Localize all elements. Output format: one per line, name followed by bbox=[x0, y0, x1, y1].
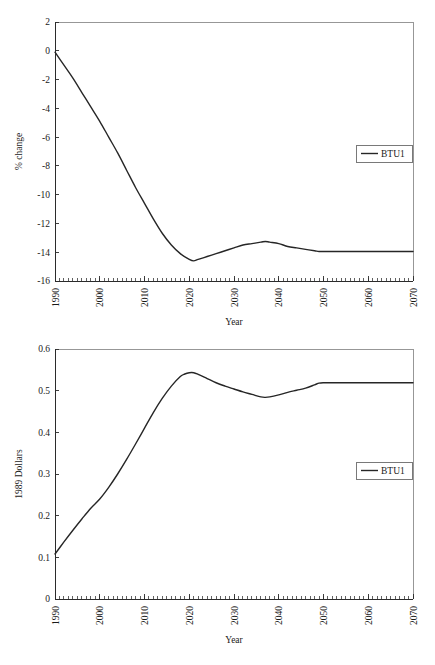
y-tick-label: 0 bbox=[45, 46, 50, 56]
x-axis-title: Year bbox=[225, 317, 243, 327]
y-tick-label: 0.6 bbox=[38, 344, 50, 354]
y-tick-label: -16 bbox=[37, 276, 50, 286]
y-tick-label: 2 bbox=[45, 17, 50, 27]
y-tick-label: -6 bbox=[42, 133, 50, 143]
y-axis-title: 1989 Dollars bbox=[14, 449, 24, 499]
x-tick-label: 2040 bbox=[274, 288, 284, 307]
x-tick-label: 2000 bbox=[95, 288, 105, 307]
x-tick-label: 1990 bbox=[51, 606, 61, 625]
x-tick-label: 2030 bbox=[230, 288, 240, 307]
x-tick-label: 1990 bbox=[51, 288, 61, 307]
chart-figure-1989-dollars: 1990200020102020203020402050206020700.60… bbox=[0, 335, 435, 665]
x-tick-label: 2050 bbox=[319, 288, 329, 307]
y-tick-label: -4 bbox=[42, 104, 50, 114]
x-tick-label: 2010 bbox=[140, 606, 150, 625]
x-tick-label: 2060 bbox=[364, 288, 374, 307]
x-tick-label: 2020 bbox=[185, 606, 195, 625]
x-tick-label: 2050 bbox=[319, 606, 329, 625]
x-axis-title: Year bbox=[225, 635, 243, 645]
y-tick-label: 0.5 bbox=[38, 386, 50, 396]
legend-label-btu1: BTU1 bbox=[381, 466, 405, 476]
x-tick-label: 2060 bbox=[364, 606, 374, 625]
y-tick-label: 0.2 bbox=[38, 511, 50, 521]
y-tick-label: -8 bbox=[42, 161, 50, 171]
legend-label-btu1: BTU1 bbox=[381, 149, 405, 159]
y-tick-label: 0.1 bbox=[38, 553, 50, 563]
y-tick-label: -14 bbox=[37, 248, 50, 258]
x-tick-label: 2070 bbox=[409, 606, 419, 625]
y-tick-label: -12 bbox=[37, 219, 50, 229]
dollars-chart: 1990200020102020203020402050206020700.60… bbox=[0, 335, 435, 665]
x-tick-label: 2000 bbox=[95, 606, 105, 625]
y-tick-label: 0.3 bbox=[38, 469, 50, 479]
x-tick-label: 2070 bbox=[409, 288, 419, 307]
chart-figure-percent-change: 19902000201020202030204020502060207020-2… bbox=[0, 0, 435, 335]
y-tick-label: 0 bbox=[45, 594, 50, 604]
x-tick-label: 2030 bbox=[230, 606, 240, 625]
y-tick-label: 0.4 bbox=[38, 428, 50, 438]
x-tick-label: 2010 bbox=[140, 288, 150, 307]
percent-change-chart: 19902000201020202030204020502060207020-2… bbox=[0, 0, 435, 335]
y-tick-label: -10 bbox=[37, 190, 50, 200]
x-tick-label: 2040 bbox=[274, 606, 284, 625]
x-tick-label: 2020 bbox=[185, 288, 195, 307]
y-axis-title: % change bbox=[14, 133, 24, 170]
y-tick-label: -2 bbox=[42, 75, 50, 85]
